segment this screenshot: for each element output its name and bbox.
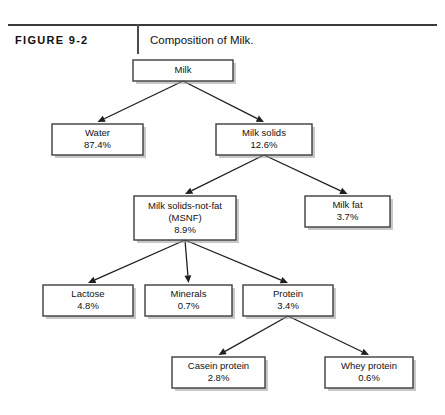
node-title: Milk solids [242, 127, 286, 138]
node-protein: Protein3.4% [243, 285, 336, 319]
node-title: Whey protein [341, 360, 397, 371]
node-solids: Milk solids12.6% [216, 124, 315, 158]
edge-protein-to-whey [288, 316, 369, 355]
edge-solids-to-fat [264, 155, 348, 194]
edge-protein-to-casein [219, 316, 289, 355]
node-value: 4.8% [77, 300, 99, 311]
node-title: Milk solids-not-fat [148, 200, 222, 211]
node-lactose: Lactose4.8% [43, 285, 136, 319]
edge-line [288, 316, 362, 352]
edge-line [104, 81, 183, 119]
node-value: 3.4% [277, 300, 299, 311]
node-water: Water87.4% [52, 124, 146, 158]
edge-line [185, 240, 188, 276]
node-title: Milk [175, 64, 192, 75]
edge-line [185, 240, 281, 280]
node-subtitle: (MSNF) [168, 212, 201, 223]
edge-line [264, 155, 341, 191]
node-value: 12.6% [251, 139, 278, 150]
node-whey: Whey protein0.6% [325, 357, 416, 391]
edge-milk-to-water [98, 81, 184, 122]
edge-line [192, 155, 264, 191]
node-title: Protein [273, 288, 303, 299]
node-milk: Milk [133, 60, 236, 84]
edge-line [183, 81, 257, 119]
node-minerals: Minerals0.7% [145, 285, 235, 319]
node-fat: Milk fat3.7% [305, 196, 393, 230]
node-value: 3.7% [337, 211, 359, 222]
node-msnf: Milk solids-not-fat(MSNF)8.9% [134, 196, 239, 243]
milk-composition-flowchart: MilkWater87.4%Milk solids12.6%Milk solid… [0, 0, 445, 415]
node-title: Milk fat [332, 199, 362, 210]
node-value: 0.7% [178, 300, 200, 311]
node-title: Lactose [71, 288, 104, 299]
nodes-layer: MilkWater87.4%Milk solids12.6%Milk solid… [43, 60, 416, 391]
node-title: Casein protein [188, 360, 249, 371]
node-value: 87.4% [84, 139, 111, 150]
edge-line [95, 240, 185, 280]
edge-msnf-to-lactose [88, 240, 185, 283]
node-title: Water [85, 127, 110, 138]
node-value: 2.8% [208, 372, 230, 383]
edge-solids-to-msnf [185, 155, 264, 194]
edge-msnf-to-minerals [185, 240, 192, 283]
node-value: 0.6% [358, 372, 380, 383]
edge-milk-to-solids [183, 81, 264, 122]
node-value: 8.9% [174, 224, 196, 235]
node-casein: Casein protein2.8% [172, 357, 268, 391]
node-title: Minerals [171, 288, 207, 299]
edge-msnf-to-protein [185, 240, 288, 283]
edge-line [225, 316, 288, 351]
arrowhead-icon [185, 275, 192, 283]
figure-page: FIGURE 9-2 Composition of Milk. MilkWate… [0, 0, 445, 415]
